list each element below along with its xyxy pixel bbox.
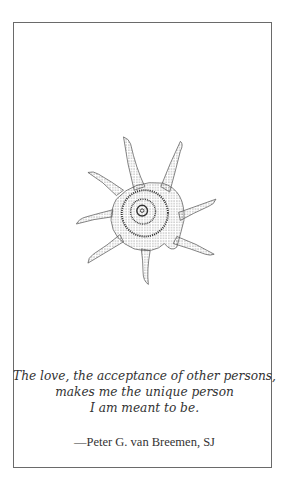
quote-attribution: —Peter G. van Breemen, SJ — [0, 435, 289, 450]
quote-line: makes me the unique person — [0, 384, 289, 400]
seashell-illustration-icon — [70, 128, 225, 288]
quote-line: I am meant to be. — [0, 400, 289, 416]
quote-text: The love, the acceptance of other person… — [0, 368, 289, 416]
quote-line: The love, the acceptance of other person… — [0, 368, 289, 384]
